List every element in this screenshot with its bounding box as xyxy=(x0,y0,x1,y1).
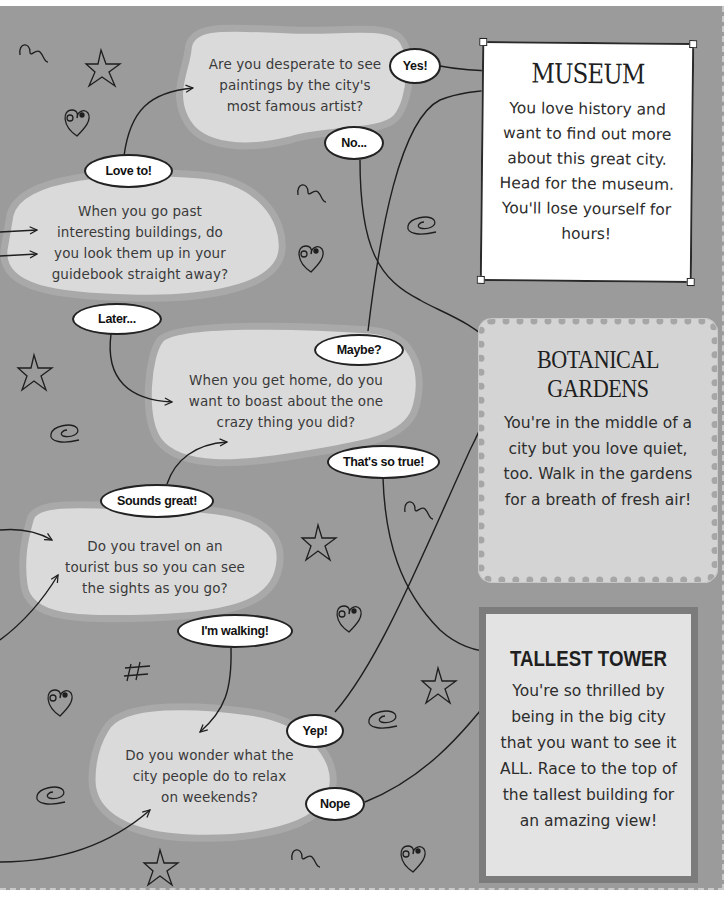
question-buildings: When you go past interesting buildings, … xyxy=(50,201,230,285)
result-gardens-title-line1: BOTANICAL xyxy=(502,345,694,374)
question-bus: Do you travel on an tourist bus so you c… xyxy=(65,536,245,599)
result-tower-body: You're so thrilled by being in the big c… xyxy=(498,678,679,834)
question-boast: When you get home, do you want to boast … xyxy=(180,370,392,433)
answer-im-walking-button[interactable]: I'm walking! xyxy=(177,614,293,648)
answer-love-to-button[interactable]: Love to! xyxy=(84,154,173,188)
answer-later-button[interactable]: Later... xyxy=(72,303,162,335)
result-gardens-card: BOTANICAL GARDENS You're in the middle o… xyxy=(478,318,718,583)
corner-ornament-icon xyxy=(477,276,485,284)
answer-thats-so-true-button[interactable]: That's so true! xyxy=(327,445,440,479)
result-tower-card: TALLEST TOWER You're so thrilled by bein… xyxy=(479,607,698,883)
question-relax: Do you wonder what the city people do to… xyxy=(122,745,297,808)
result-gardens-title-line2: GARDENS xyxy=(502,374,694,403)
corner-ornament-icon xyxy=(689,40,697,48)
answer-nope-button[interactable]: Nope xyxy=(305,787,365,821)
answer-yes-button[interactable]: Yes! xyxy=(389,48,441,84)
result-tower-title: TALLEST TOWER xyxy=(501,646,675,672)
result-museum-card: MUSEUM You love history and want to find… xyxy=(480,41,695,283)
corner-ornament-icon xyxy=(479,38,487,46)
result-gardens-title: BOTANICAL GARDENS xyxy=(502,345,694,403)
question-paintings: Are you desperate to see paintings by th… xyxy=(205,54,385,117)
answer-maybe-button[interactable]: Maybe? xyxy=(314,334,404,366)
answer-sounds-great-button[interactable]: Sounds great! xyxy=(100,484,214,518)
answer-no-button[interactable]: No... xyxy=(324,126,384,160)
result-museum-body: You love history and want to find out mo… xyxy=(494,96,680,248)
result-gardens-body: You're in the middle of a city but you l… xyxy=(495,411,701,513)
result-museum-title: MUSEUM xyxy=(499,57,676,90)
corner-ornament-icon xyxy=(687,278,695,286)
answer-yep-button[interactable]: Yep! xyxy=(286,714,344,748)
